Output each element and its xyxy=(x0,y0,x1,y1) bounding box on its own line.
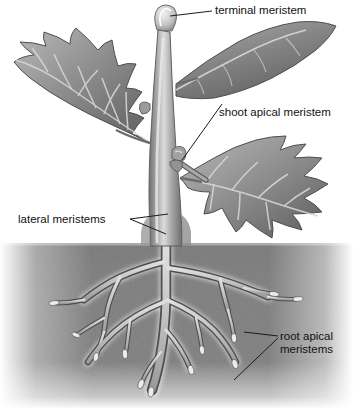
upper-right-leaf xyxy=(176,22,336,99)
upper-left-leaf xyxy=(14,28,150,143)
label-lateral-meristems: lateral meristems xyxy=(18,213,106,226)
label-shoot-apical-meristem: shoot apical meristem xyxy=(219,106,331,119)
label-terminal-meristem: terminal meristem xyxy=(215,4,306,17)
label-root-apical-line2: meristems xyxy=(280,343,333,356)
leader-shoot-apical xyxy=(182,104,222,160)
label-root-apical-line1: root apical xyxy=(280,330,333,342)
lower-right-leaf xyxy=(180,136,328,238)
axillary-bud-left xyxy=(139,102,150,114)
main-stem xyxy=(141,30,191,246)
figure-canvas: terminal meristem shoot apical meristem … xyxy=(0,0,353,408)
label-root-apical-meristems: root apical meristems xyxy=(280,330,333,356)
terminal-bud xyxy=(155,5,177,31)
